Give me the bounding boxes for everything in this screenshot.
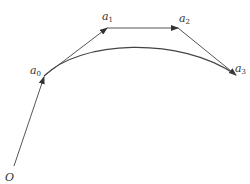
label-a1: a1	[102, 10, 113, 24]
label-o: O	[5, 171, 14, 184]
label-a0: a0	[30, 64, 41, 78]
vector-a2-a3	[178, 28, 236, 75]
label-a3: a3	[235, 62, 246, 76]
vector-o-a0	[14, 77, 44, 166]
bezier-diagram: O a0 a1 a2 a3	[0, 0, 250, 184]
label-a2: a2	[179, 12, 190, 26]
